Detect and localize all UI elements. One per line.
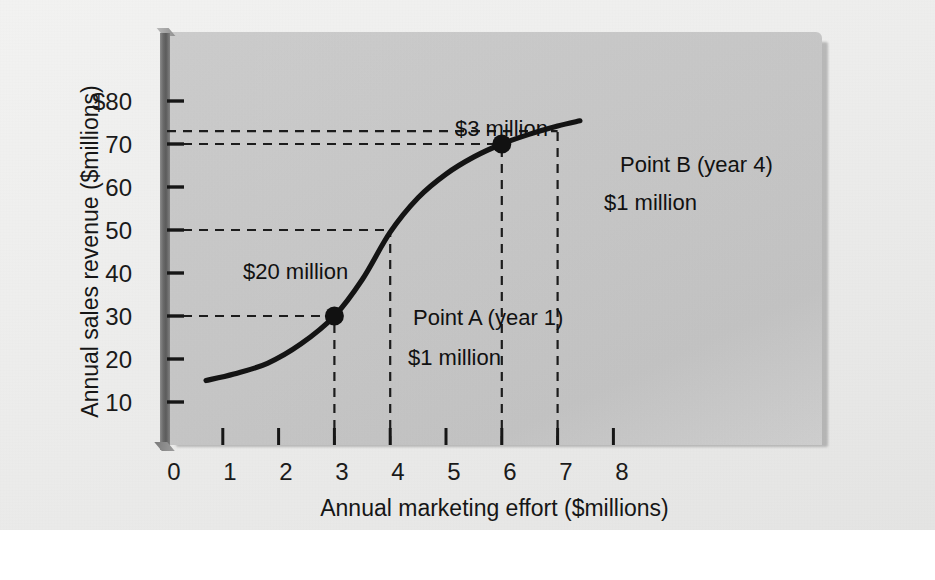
x-tick-label-8: 8 (602, 458, 642, 486)
x-tick-label-3: 3 (322, 458, 362, 486)
annotation-point-b-label: Point B (year 4) (620, 152, 773, 178)
annotation-three-million: $3 million (455, 116, 548, 142)
chart-page: $80 70 60 50 40 30 20 10 0 1 2 3 4 5 6 7… (0, 0, 935, 580)
x-tick-label-7: 7 (546, 458, 586, 486)
sales-response-curve-group (206, 121, 580, 381)
chart-vector-layer (0, 0, 935, 580)
x-tick-label-1: 1 (210, 458, 250, 486)
annotation-point-b-cost: $1 million (604, 190, 697, 216)
x-tick-label-5: 5 (434, 458, 474, 486)
annotation-twenty-million: $20 million (243, 259, 348, 285)
x-tick-label-6: 6 (490, 458, 530, 486)
guide-lines-group (167, 131, 558, 445)
data-point-marker-a (325, 307, 344, 326)
x-tick-label-2: 2 (266, 458, 306, 486)
sales-response-curve (206, 121, 580, 381)
annotation-point-a-cost: $1 million (408, 345, 501, 371)
annotation-point-a-label: Point A (year 1) (413, 305, 563, 331)
y-axis-title: Annual sales revenue ($millions) (77, 42, 104, 462)
x-tick-label-4: 4 (378, 458, 418, 486)
x-tick-label-0: 0 (154, 458, 194, 486)
x-axis-title: Annual marketing effort ($millions) (167, 495, 822, 522)
